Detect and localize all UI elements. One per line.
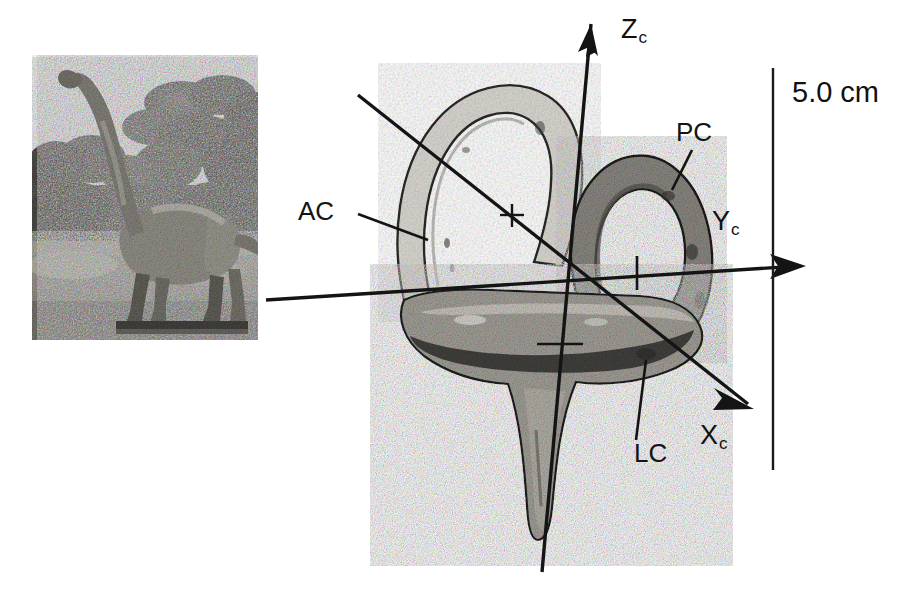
- labyrinth-and-axes-layer: [0, 0, 915, 592]
- axis-label-xc: Xc: [700, 420, 727, 451]
- axis-label-xc-sub: c: [719, 434, 728, 453]
- axis-label-zc-sub: c: [639, 28, 648, 47]
- axis-label-xc-base: X: [700, 420, 718, 450]
- label-pc: PC: [676, 117, 712, 148]
- axis-label-zc: Zc: [621, 14, 646, 45]
- figure-canvas: AC PC LC Zc Yc Xc 5.0 cm: [0, 0, 915, 592]
- axis-label-yc-sub: c: [731, 220, 740, 239]
- vestibule-cochlea-mass: [401, 289, 702, 540]
- label-ac: AC: [298, 196, 334, 227]
- axis-label-yc: Yc: [712, 206, 739, 237]
- scale-bar-label: 5.0 cm: [792, 76, 879, 109]
- axis-label-zc-base: Z: [621, 14, 638, 44]
- axis-label-yc-base: Y: [712, 206, 730, 236]
- anterior-canal-loop: [397, 85, 582, 300]
- label-lc: LC: [634, 438, 667, 469]
